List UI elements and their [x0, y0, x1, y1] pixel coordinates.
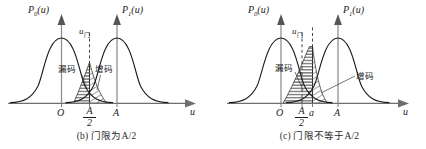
tick-label-half-amplitude: A 2 — [83, 106, 96, 128]
panel-b-plot — [0, 0, 213, 149]
x-axis-label: u — [403, 106, 408, 117]
curve-label-p1: P1(u) — [122, 4, 143, 17]
tick-label-threshold: a — [309, 107, 314, 118]
region-miss-label: 漏码 — [275, 61, 293, 73]
region-add-label: 增码 — [356, 69, 374, 81]
y-axis-p0 — [277, 14, 285, 103]
fraction-denominator: 2 — [295, 118, 308, 128]
curve-label-p0: P0(u) — [28, 4, 49, 17]
region-add-label: 增码 — [95, 62, 113, 74]
region-add-hatch — [313, 47, 329, 104]
threshold-label: u门 — [79, 26, 90, 39]
curve-label-p1: P1(u) — [343, 4, 364, 17]
threshold-label: u门 — [292, 26, 303, 39]
y-axis-p0 — [58, 14, 66, 103]
x-axis-label: u — [190, 106, 195, 117]
tick-label-amplitude: A — [334, 107, 340, 118]
tick-label-origin: O — [276, 107, 283, 118]
panel-c-caption: (c) 门限不等于A/2 — [213, 128, 426, 142]
panel-b-caption: (b) 门限为A/2 — [0, 128, 213, 142]
panel-threshold-half: P0(u) P1(u) u门 漏码 增码 O A 2 A u (b) 门限为A/… — [0, 0, 213, 149]
fraction-numerator: A — [83, 106, 96, 116]
figure-root: P0(u) P1(u) u门 漏码 增码 O A 2 A u (b) 门限为A/… — [0, 0, 426, 149]
curve-label-p0: P0(u) — [248, 4, 269, 17]
tick-label-half-amplitude: A 2 — [295, 106, 308, 128]
y-axis-p1 — [334, 14, 342, 103]
region-miss-label: 漏码 — [58, 62, 76, 74]
panel-c-plot — [213, 0, 426, 149]
tick-label-amplitude: A — [113, 107, 119, 118]
fraction-denominator: 2 — [83, 118, 96, 128]
panel-threshold-not-half: P0(u) P1(u) u门 漏码 增码 O A 2 a A u (c) 门限不… — [213, 0, 426, 149]
tick-label-origin: O — [57, 107, 64, 118]
y-axis-p1 — [113, 14, 121, 103]
fraction-numerator: A — [295, 106, 308, 116]
